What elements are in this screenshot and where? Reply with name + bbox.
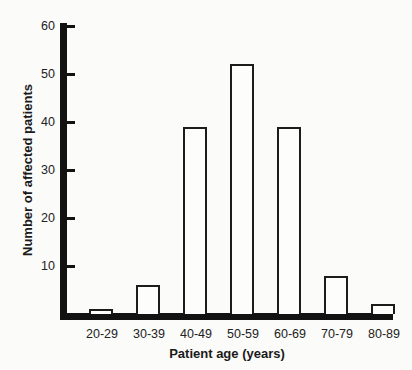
bar (136, 285, 160, 314)
y-tick (67, 25, 75, 28)
bar (324, 276, 348, 314)
x-category-label: 70-79 (314, 327, 360, 341)
x-category-label: 50-59 (220, 327, 266, 341)
y-tick (67, 121, 75, 124)
y-tick (67, 169, 75, 172)
bar (183, 127, 207, 314)
y-axis-line (60, 23, 67, 320)
x-axis-title: Patient age (years) (115, 346, 339, 361)
bar (371, 304, 395, 314)
chart-area: Number of affected patients Patient age … (0, 0, 412, 370)
x-category-label: 80-89 (361, 327, 407, 341)
histogram-figure: Number of affected patients Patient age … (0, 0, 412, 370)
y-tick-label: 40 (28, 115, 55, 130)
y-tick (67, 265, 75, 268)
bar (277, 127, 301, 314)
y-tick (67, 217, 75, 220)
x-axis-line (60, 313, 393, 320)
bar (230, 64, 254, 314)
x-category-label: 40-49 (173, 327, 219, 341)
x-category-label: 60-69 (267, 327, 313, 341)
y-tick-label: 10 (28, 259, 55, 274)
x-category-label: 30-39 (126, 327, 172, 341)
bar (89, 309, 113, 314)
y-tick (67, 73, 75, 76)
y-tick-label: 50 (28, 67, 55, 82)
y-tick-label: 60 (28, 19, 55, 34)
y-tick-label: 30 (28, 163, 55, 178)
x-category-label: 20-29 (79, 327, 125, 341)
y-tick-label: 20 (28, 211, 55, 226)
